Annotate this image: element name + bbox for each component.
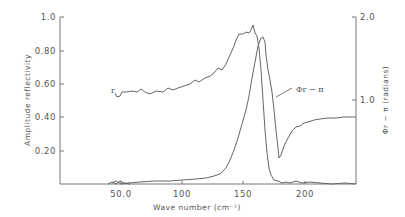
y-right-ticks: 1.0 2.0: [352, 12, 375, 105]
y-left-tick-0.40: 0.40: [35, 112, 56, 122]
curve-label-r: r: [111, 86, 115, 95]
curve-amplitude-reflectivity: [115, 25, 356, 184]
y-left-axis-title: Amplitude reflectivity: [23, 54, 32, 146]
x-tick-50: 50.0: [110, 189, 131, 199]
x-tick-100: 100: [173, 189, 191, 199]
curve-label-phase: Φr − π: [296, 85, 323, 94]
y-left-tick-1.0: 1.0: [41, 12, 56, 22]
x-tick-150: 150: [234, 189, 252, 199]
annotation-leader-line: [276, 88, 292, 97]
y-right-axis-title: Φr − π (radians): [381, 66, 390, 135]
y-right-tick-2.0: 2.0: [360, 12, 375, 22]
curve-phase: [112, 37, 356, 184]
x-axis-title: Wave number (cm⁻¹): [153, 203, 241, 212]
y-left-tick-0.20: 0.20: [35, 146, 56, 156]
y-right-tick-1.0: 1.0: [360, 95, 375, 105]
y-left-tick-0.80: 0.80: [35, 46, 56, 56]
x-tick-200: 200: [296, 189, 314, 199]
chart: 0.20 0.40 0.60 0.80 1.0 1.0 2.0 50.0 100…: [0, 0, 405, 217]
y-left-tick-0.60: 0.60: [35, 79, 56, 89]
